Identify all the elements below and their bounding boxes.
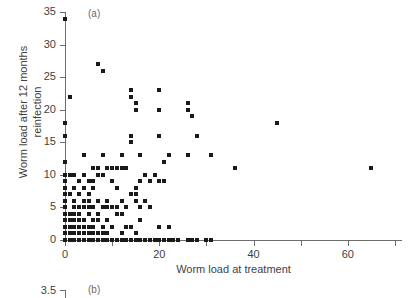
data-point [162, 238, 166, 242]
data-point [68, 218, 72, 222]
data-point [124, 225, 128, 229]
data-point [138, 238, 142, 242]
data-point [129, 225, 133, 229]
data-point [63, 199, 67, 203]
data-point [129, 140, 133, 144]
data-point [101, 225, 105, 229]
data-point [120, 238, 124, 242]
data-point [209, 238, 213, 242]
data-point [87, 192, 91, 196]
data-point [91, 186, 95, 190]
data-point [157, 179, 161, 183]
y-axis-title: Worm load after 12 months reinfection [16, 12, 44, 212]
data-point [87, 179, 91, 183]
data-point [134, 186, 138, 190]
data-point [87, 212, 91, 216]
data-point [190, 114, 194, 118]
data-point [115, 186, 119, 190]
data-point [157, 88, 161, 92]
x-tick-label: 40 [239, 248, 269, 260]
y-axis-title-line1: Worm load after 12 months [16, 12, 30, 212]
data-point [186, 108, 190, 112]
data-point [82, 153, 86, 157]
data-point [134, 192, 138, 196]
data-point [143, 173, 147, 177]
data-point [63, 134, 67, 138]
data-point [105, 199, 109, 203]
data-point [115, 238, 119, 242]
data-point [68, 238, 72, 242]
x-tick-mark [395, 241, 396, 246]
panel-b: 3.5 (b) [0, 268, 409, 298]
data-point [153, 238, 157, 242]
data-point [91, 166, 95, 170]
y-tick-mark [60, 110, 65, 111]
data-point [96, 231, 100, 235]
data-point [101, 69, 105, 73]
data-point [68, 192, 72, 196]
data-point [96, 238, 100, 242]
data-point [167, 238, 171, 242]
data-point [72, 212, 76, 216]
data-point [87, 199, 91, 203]
data-point [101, 205, 105, 209]
data-point [138, 218, 142, 222]
data-point [82, 238, 86, 242]
data-point [63, 179, 67, 183]
data-point [72, 186, 76, 190]
data-point [157, 225, 161, 229]
data-point [63, 218, 67, 222]
data-point [82, 205, 86, 209]
y-tick-mark [60, 45, 65, 46]
data-point [129, 95, 133, 99]
data-point [63, 238, 67, 242]
scatter-figure: 05101520253035 0204060 Worm load after 1… [0, 0, 409, 298]
data-point [110, 166, 114, 170]
data-point [105, 231, 109, 235]
data-point [101, 153, 105, 157]
x-tick-label: 0 [50, 248, 80, 260]
data-point [148, 238, 152, 242]
panel-a: 05101520253035 0204060 Worm load after 1… [0, 0, 409, 268]
data-point [157, 108, 161, 112]
data-point [63, 186, 67, 190]
data-point [101, 173, 105, 177]
data-point [77, 238, 81, 242]
data-point [72, 231, 76, 235]
data-point [82, 218, 86, 222]
data-point [77, 205, 81, 209]
data-point [124, 166, 128, 170]
data-point [124, 205, 128, 209]
data-point [82, 199, 86, 203]
panel-a-label: (a) [88, 8, 100, 19]
data-point [186, 101, 190, 105]
panel-b-label: (b) [88, 284, 100, 295]
data-point [148, 205, 152, 209]
data-point [120, 231, 124, 235]
data-point [115, 205, 119, 209]
data-point [162, 179, 166, 183]
data-point [105, 218, 109, 222]
data-point [63, 17, 67, 21]
data-point [77, 218, 81, 222]
x-tick-mark [301, 241, 302, 246]
data-point [91, 231, 95, 235]
data-point [195, 238, 199, 242]
data-point [110, 179, 114, 183]
data-point [143, 238, 147, 242]
data-point [138, 179, 142, 183]
data-point [129, 88, 133, 92]
data-point [186, 153, 190, 157]
data-point [72, 225, 76, 229]
data-point [96, 173, 100, 177]
x-tick-mark [254, 241, 255, 246]
data-point [91, 225, 95, 229]
data-point [82, 173, 86, 177]
data-point [96, 212, 100, 216]
data-point [101, 238, 105, 242]
data-point [77, 192, 81, 196]
data-point [96, 199, 100, 203]
data-point [87, 231, 91, 235]
data-point [68, 95, 72, 99]
data-point [157, 134, 161, 138]
